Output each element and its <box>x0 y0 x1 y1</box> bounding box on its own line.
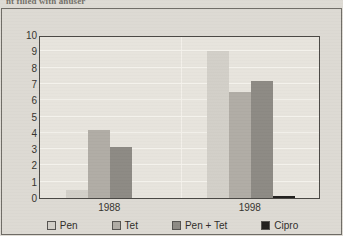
y-tick-label: 4 <box>21 129 37 139</box>
gridline <box>40 164 319 165</box>
figure-container: 109876543210 Percent resistant 19881998 … <box>1 8 342 235</box>
clipped-caption-text: nt filled with anuser <box>6 0 126 5</box>
legend-label: Cipro <box>274 220 298 231</box>
legend-item: Pen + Tet <box>172 220 227 231</box>
bar <box>110 147 132 198</box>
plot-area <box>39 36 320 199</box>
gridline <box>40 116 319 117</box>
bar <box>251 81 273 198</box>
bar <box>229 92 251 198</box>
legend-item: Cipro <box>261 220 298 231</box>
legend-label: Tet <box>125 220 138 231</box>
legend-label: Pen <box>60 220 78 231</box>
y-tick-label: 8 <box>21 64 37 74</box>
gridline <box>40 132 319 133</box>
bar <box>273 196 295 198</box>
y-tick-label: 1 <box>21 178 37 188</box>
gridline <box>40 83 319 84</box>
x-tick-label: 1988 <box>79 202 139 213</box>
y-axis-tick-labels: 109876543210 <box>16 36 37 199</box>
legend-swatch-icon <box>261 221 270 230</box>
y-tick-label: 2 <box>21 161 37 171</box>
legend-swatch-icon <box>112 221 121 230</box>
legend-item: Pen <box>47 220 78 231</box>
y-tick-label: 7 <box>21 80 37 90</box>
legend-swatch-icon <box>47 221 56 230</box>
y-tick-label: 6 <box>21 96 37 106</box>
y-tick-label: 3 <box>21 145 37 155</box>
y-tick-label: 10 <box>21 31 37 41</box>
y-tick-label: 9 <box>21 47 37 57</box>
y-tick-label: 0 <box>21 194 37 204</box>
gridline <box>40 148 319 149</box>
bar <box>88 130 110 198</box>
gridline <box>40 181 319 182</box>
legend-item: Tet <box>112 220 138 231</box>
x-tick-label: 1998 <box>220 202 280 213</box>
legend-label: Pen + Tet <box>185 220 227 231</box>
gridline <box>40 67 319 68</box>
bar <box>66 190 88 198</box>
bar <box>207 51 229 198</box>
chart-legend: PenTetPen + TetCipro <box>2 214 343 236</box>
y-tick-label: 5 <box>21 113 37 123</box>
gridline <box>40 50 319 51</box>
scanned-page: nt filled with anuser 109876543210 Perce… <box>0 0 343 236</box>
legend-swatch-icon <box>172 221 181 230</box>
group-separator <box>181 37 182 198</box>
gridline <box>40 99 319 100</box>
